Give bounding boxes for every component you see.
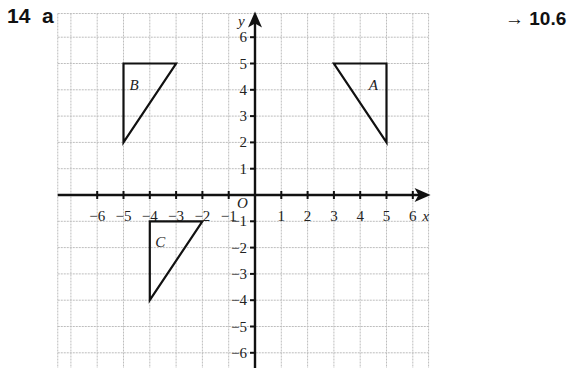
y-tick-label: 1 (240, 161, 248, 177)
x-tick-label: 1 (278, 208, 286, 224)
y-tick-label: −2 (231, 240, 247, 256)
triangle-label-a: A (368, 77, 379, 93)
y-tick-label: −5 (231, 319, 247, 335)
triangle-label-b: B (129, 77, 138, 93)
coordinate-grid: −6−5−4−3−2−1123456−6−5−4−3−2−1123456xyOA… (0, 0, 570, 368)
triangle-label-c: C (155, 234, 166, 250)
y-tick-label: −6 (231, 345, 247, 361)
x-tick-label: −6 (89, 208, 105, 224)
y-tick-label: −3 (231, 266, 247, 282)
origin-label: O (237, 195, 248, 211)
y-axis-label: y (236, 13, 245, 29)
x-tick-label: −5 (116, 208, 132, 224)
x-axis-label: x (422, 208, 430, 224)
y-tick-label: −4 (231, 292, 247, 308)
x-tick-label: 4 (356, 208, 364, 224)
y-tick-label: 2 (240, 134, 248, 150)
x-tick-label: 5 (383, 208, 391, 224)
x-tick-label: 6 (409, 208, 417, 224)
y-tick-label: 6 (240, 29, 248, 45)
x-tick-label: 3 (330, 208, 338, 224)
y-tick-label: 3 (240, 108, 248, 124)
y-tick-label: −1 (231, 213, 247, 229)
y-tick-label: 5 (240, 56, 248, 72)
x-tick-label: 2 (304, 208, 312, 224)
y-tick-label: 4 (240, 82, 248, 98)
